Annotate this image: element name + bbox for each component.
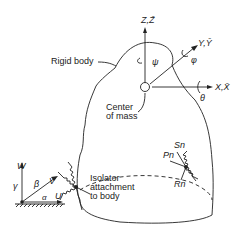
theta-label: θ <box>200 94 205 103</box>
gamma-label: γ <box>13 182 18 191</box>
w-label: W <box>17 162 26 171</box>
isolator-label-line3: to body <box>90 192 120 201</box>
y-axis-label: Y,Ȳ <box>198 39 212 48</box>
phi-label: φ <box>191 56 197 65</box>
psi-label: ψ <box>152 58 159 67</box>
z-axis-label: Z,Z̄ <box>141 16 155 25</box>
u-label: U <box>55 192 62 201</box>
beta-label: β <box>34 180 39 189</box>
pn-label: Pn <box>163 151 174 160</box>
sn-label: Sn <box>174 141 185 150</box>
x-axis-label: X,X̄ <box>215 83 230 92</box>
rn-label: Rn <box>174 180 186 189</box>
alpha-label: α <box>42 193 47 202</box>
v-label: V <box>49 177 55 186</box>
rigid-body-label: Rigid body <box>51 57 94 66</box>
center-of-mass-label-line2: of mass <box>106 112 138 121</box>
